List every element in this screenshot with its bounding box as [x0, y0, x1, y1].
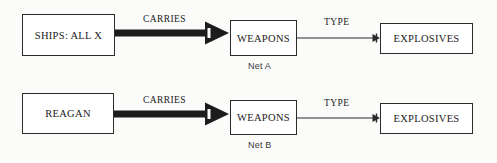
edge-type-a — [297, 34, 380, 43]
node-weapons-b[interactable]: WEAPONS — [230, 100, 297, 135]
node-label: EXPLOSIVES — [393, 33, 459, 44]
edge-label-type-b: TYPE — [324, 98, 349, 108]
node-label: REAGAN — [45, 108, 91, 119]
node-explosives-a[interactable]: EXPLOSIVES — [380, 23, 473, 54]
edge-label-type-a: TYPE — [324, 17, 349, 27]
node-label: EXPLOSIVES — [393, 113, 459, 124]
node-label: WEAPONS — [237, 33, 290, 44]
node-label: SHIPS: ALL X — [35, 30, 102, 41]
net-label-b: Net B — [248, 140, 272, 150]
node-subject-a[interactable]: SHIPS: ALL X — [22, 14, 115, 56]
diagram-canvas: SHIPS: ALL X WEAPONS EXPLOSIVES CARRIES … — [0, 0, 497, 163]
edge-type-b — [297, 114, 380, 123]
edge-carries-b — [114, 103, 229, 126]
net-label-a: Net A — [248, 61, 271, 71]
edge-label-carries-b: CARRIES — [143, 95, 186, 105]
node-subject-b[interactable]: REAGAN — [22, 93, 114, 134]
node-weapons-a[interactable]: WEAPONS — [230, 20, 297, 56]
edge-carries-a — [115, 22, 229, 45]
edge-label-carries-a: CARRIES — [143, 14, 186, 24]
node-explosives-b[interactable]: EXPLOSIVES — [380, 103, 473, 134]
node-label: WEAPONS — [237, 112, 290, 123]
